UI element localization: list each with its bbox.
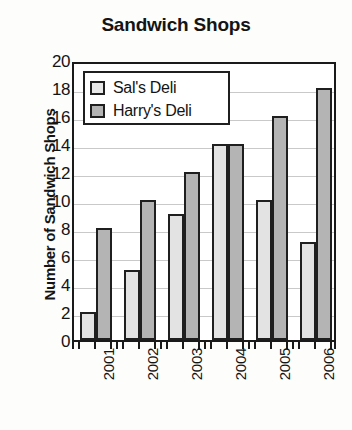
gridline xyxy=(74,232,334,233)
legend-swatch-icon xyxy=(90,81,105,95)
x-axis-tick xyxy=(122,342,124,349)
gridline xyxy=(74,176,334,177)
gridline xyxy=(74,288,334,289)
y-axis-tick-label: 12 xyxy=(30,165,70,182)
x-axis-tick xyxy=(270,342,272,349)
bar xyxy=(184,172,200,340)
x-axis-tick-label: 2001 xyxy=(101,348,116,418)
x-axis-tick xyxy=(78,342,80,349)
legend-swatch-icon xyxy=(90,104,105,118)
y-axis-tick-label: 0 xyxy=(30,333,70,350)
gridline xyxy=(74,148,334,149)
x-axis-tick-label: 2006 xyxy=(321,348,336,418)
x-axis-tick xyxy=(72,342,74,349)
x-axis-tick xyxy=(182,342,184,349)
bar-chart: Sandwich Shops Number of Sandwich Shops … xyxy=(0,0,352,430)
x-axis-tick xyxy=(210,342,212,349)
bar xyxy=(300,242,316,340)
y-axis-tick-label: 10 xyxy=(30,193,70,210)
x-axis-tick-label: 2004 xyxy=(233,348,248,418)
bar xyxy=(228,144,244,340)
legend-item: Harry's Deli xyxy=(90,99,223,122)
bar xyxy=(212,144,228,340)
x-axis-tick-label: 2005 xyxy=(277,348,292,418)
bar xyxy=(80,312,96,340)
x-axis-tick xyxy=(94,342,96,349)
bar xyxy=(124,270,140,340)
legend-item: Sal's Deli xyxy=(90,76,223,99)
bar xyxy=(168,214,184,340)
y-axis-tick-label: 2 xyxy=(30,305,70,322)
y-axis-tick-label: 16 xyxy=(30,109,70,126)
y-axis-tick-label: 14 xyxy=(30,137,70,154)
chart-legend: Sal's Deli Harry's Deli xyxy=(83,71,230,125)
bar xyxy=(96,228,112,340)
bar xyxy=(256,200,272,340)
y-axis-tick-label: 18 xyxy=(30,81,70,98)
y-axis-tick-label: 4 xyxy=(30,277,70,294)
gridline xyxy=(74,260,334,261)
x-axis-tick-label: 2002 xyxy=(145,348,160,418)
x-axis-tick xyxy=(254,342,256,349)
chart-title: Sandwich Shops xyxy=(0,14,352,36)
x-axis-tick xyxy=(138,342,140,349)
gridline xyxy=(74,316,334,317)
bar xyxy=(272,116,288,340)
legend-label: Sal's Deli xyxy=(113,80,176,96)
x-axis-tick xyxy=(166,342,168,349)
y-axis-tick-label: 6 xyxy=(30,249,70,266)
y-axis-tick-label: 8 xyxy=(30,221,70,238)
x-axis-tick xyxy=(226,342,228,349)
gridline xyxy=(74,204,334,205)
x-axis-tick-label: 2003 xyxy=(189,348,204,418)
x-axis-tick xyxy=(298,342,300,349)
x-axis-tick xyxy=(314,342,316,349)
legend-label: Harry's Deli xyxy=(113,103,192,119)
bar xyxy=(316,88,332,340)
y-axis-tick-label: 20 xyxy=(30,53,70,70)
bar xyxy=(140,200,156,340)
